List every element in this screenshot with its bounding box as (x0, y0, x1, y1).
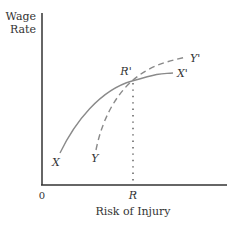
y-start-label: Y (91, 152, 100, 165)
origin-label: 0 (39, 190, 45, 201)
y-end-label: Y' (190, 52, 200, 65)
curve-yy-prime (96, 57, 186, 150)
y-axis-label-line1: Wage (6, 10, 36, 23)
x-axis-label: Risk of Injury (95, 205, 171, 218)
wage-risk-diagram: Wage Rate Risk of Injury 0 R R' X X' Y Y… (0, 0, 238, 226)
x-end-label: X' (176, 67, 188, 80)
intersection-label: R' (119, 65, 131, 78)
r-tick-label: R (128, 189, 137, 202)
x-start-label: X (51, 156, 61, 169)
y-axis-label-line2: Rate (10, 23, 36, 36)
curve-xx-prime (60, 73, 173, 153)
